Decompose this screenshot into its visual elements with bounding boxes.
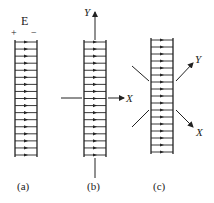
y-axis-arrow-c — [176, 63, 193, 81]
field-lines-b — [84, 40, 106, 156]
field-diagram-figure: E + − (a) Y X (b) — [0, 0, 214, 203]
panel-c: Y X (c) — [132, 38, 204, 193]
x-axis-label-b: X — [125, 92, 134, 104]
x-axis-label-c: X — [195, 126, 204, 138]
panel-b: Y X (b) — [61, 6, 134, 193]
y-axis-tail-c — [132, 66, 149, 81]
minus-sign: − — [31, 27, 37, 38]
plus-sign: + — [11, 27, 17, 38]
caption-b: (b) — [87, 180, 100, 193]
x-axis-tail-c — [132, 110, 149, 127]
y-axis-label-b: Y — [84, 6, 92, 18]
y-axis-label-c: Y — [195, 53, 203, 65]
field-label-e: E — [21, 14, 28, 28]
caption-a: (a) — [17, 180, 30, 193]
panel-a: E + − (a) — [11, 14, 37, 193]
caption-c: (c) — [153, 180, 166, 193]
field-lines-a — [15, 40, 37, 156]
field-lines-c — [151, 38, 173, 153]
x-axis-arrow-c — [176, 110, 193, 127]
